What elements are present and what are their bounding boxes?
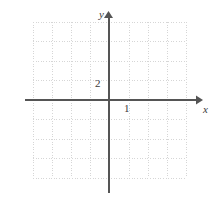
coordinate-plane-figure: y x 2 1 (0, 0, 216, 206)
y-axis-tick-label-2: 2 (95, 78, 101, 89)
x-axis-tick-label-1: 1 (124, 103, 130, 114)
x-axis-label: x (203, 104, 208, 115)
y-axis-label: y (99, 9, 104, 20)
right-arrow-icon (196, 96, 203, 105)
plot-area (0, 0, 216, 206)
up-arrow-icon (104, 11, 113, 18)
